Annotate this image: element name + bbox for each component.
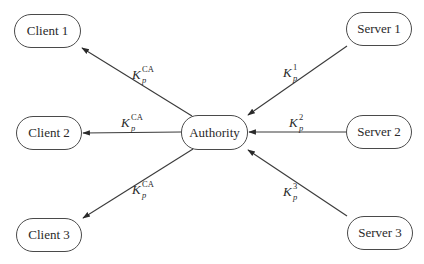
- node-server-3-label: Server 3: [358, 225, 402, 241]
- edge-label-authority-client2: K CA p: [121, 116, 130, 129]
- edge-label-authority-client3: K CA p: [132, 183, 141, 196]
- node-server-2: Server 2: [346, 115, 412, 149]
- node-client-3: Client 3: [16, 218, 82, 252]
- edge-label-server1-authority: K 1 p: [283, 66, 292, 79]
- edge-label-subscript: p: [142, 76, 146, 85]
- node-client-2: Client 2: [16, 116, 82, 150]
- arrow-server3-to-authority: [248, 150, 347, 216]
- edge-label-base: K: [289, 115, 298, 130]
- node-authority-label: Authority: [189, 125, 240, 141]
- edge-label-subscript: p: [142, 191, 146, 200]
- edge-label-base: K: [283, 65, 292, 80]
- edge-label-base: K: [121, 115, 130, 130]
- node-client-2-label: Client 2: [28, 125, 70, 141]
- node-server-2-label: Server 2: [357, 124, 401, 140]
- arrow-server1-to-authority: [248, 46, 347, 115]
- edge-label-server2-authority: K 2 p: [289, 116, 298, 129]
- node-authority: Authority: [181, 115, 248, 150]
- node-server-1: Server 1: [346, 12, 412, 46]
- edge-label-base: K: [132, 67, 141, 82]
- edge-label-server3-authority: K 3 p: [283, 185, 292, 198]
- node-server-1-label: Server 1: [357, 21, 401, 37]
- edge-label-superscript: CA: [142, 65, 154, 74]
- node-client-1: Client 1: [14, 14, 81, 48]
- edge-label-authority-client1: K CA p: [132, 68, 141, 81]
- edge-label-subscript: p: [299, 124, 303, 133]
- node-client-1-label: Client 1: [27, 23, 69, 39]
- edge-label-superscript: CA: [131, 113, 143, 122]
- edge-label-base: K: [132, 182, 141, 197]
- edge-label-superscript: 2: [299, 113, 303, 122]
- node-client-3-label: Client 3: [28, 227, 70, 243]
- arrow-authority-to-client1: [82, 48, 192, 116]
- edge-label-superscript: 3: [293, 182, 297, 191]
- edge-label-superscript: 1: [293, 63, 297, 72]
- edge-label-superscript: CA: [142, 180, 154, 189]
- edge-label-subscript: p: [293, 193, 297, 202]
- edge-label-subscript: p: [131, 124, 135, 133]
- edge-label-subscript: p: [293, 74, 297, 83]
- node-server-3: Server 3: [347, 216, 413, 250]
- edge-label-base: K: [283, 184, 292, 199]
